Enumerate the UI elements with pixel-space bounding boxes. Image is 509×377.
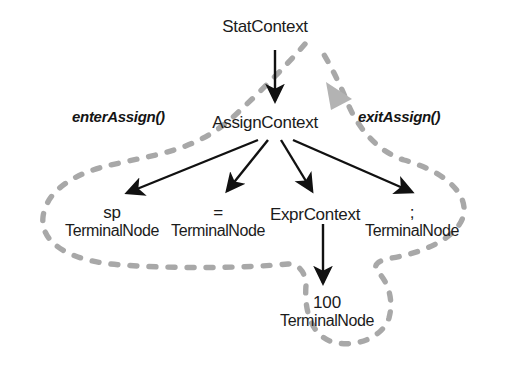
tree-edge-assign-semi (293, 140, 412, 192)
node-title: AssignContext (212, 114, 318, 132)
walk-path-dashed (43, 44, 464, 344)
tree-edge-assign-sp (127, 140, 258, 193)
parse-tree-diagram: StatContext AssignContext sp TerminalNod… (0, 0, 509, 377)
tree-node-assign-context: AssignContext (212, 114, 318, 132)
tree-edge-assign-eq (227, 140, 268, 191)
node-token: = (171, 204, 265, 222)
node-type: TerminalNode (65, 222, 159, 239)
tree-node-equals-terminal: = TerminalNode (171, 204, 265, 240)
tree-node-100-terminal: 100 TerminalNode (280, 294, 374, 330)
tree-node-stat-context: StatContext (222, 18, 308, 36)
node-token: ; (365, 204, 459, 222)
node-token: sp (65, 204, 159, 222)
node-type: TerminalNode (365, 222, 459, 239)
node-token: 100 (280, 294, 374, 312)
tree-node-semicolon-terminal: ; TerminalNode (365, 204, 459, 240)
callout-exit-assign: exitAssign() (358, 108, 440, 125)
node-type: TerminalNode (280, 312, 374, 329)
tree-node-expr-context: ExprContext (270, 206, 360, 224)
tree-edge-assign-expr (281, 140, 312, 191)
tree-node-sp-terminal: sp TerminalNode (65, 204, 159, 240)
walk-path-group (43, 44, 464, 344)
node-title: ExprContext (270, 206, 360, 224)
tree-edges-svg (0, 0, 509, 377)
node-title: StatContext (222, 18, 308, 36)
callout-enter-assign: enterAssign() (72, 108, 165, 125)
node-type: TerminalNode (171, 222, 265, 239)
